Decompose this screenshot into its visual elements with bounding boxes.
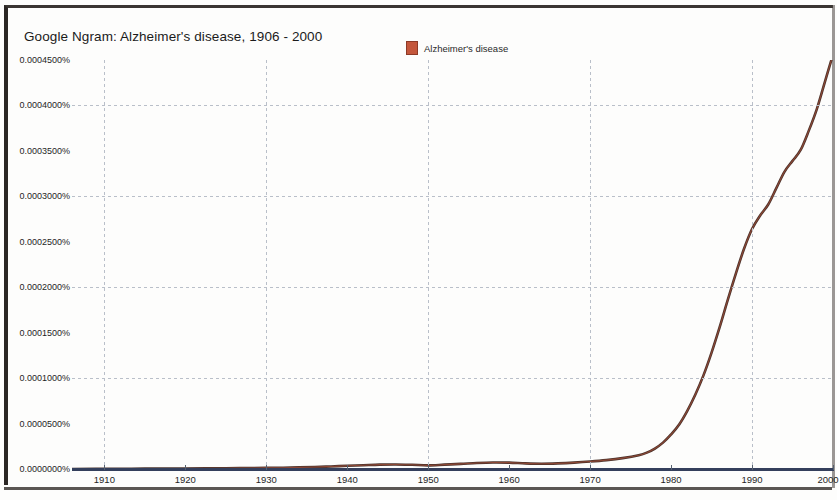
series-line-alzheimers-disease — [72, 60, 833, 469]
y-axis-tick-label: 0.0003500% — [19, 146, 70, 156]
x-axis-tick-mark — [266, 465, 267, 470]
y-axis-tick-label: 0.0000000% — [19, 464, 70, 474]
x-axis-tick-mark — [590, 465, 591, 470]
series-line-tint — [72, 60, 833, 469]
y-axis-tick-label: 0.0004500% — [19, 55, 70, 65]
x-axis-tick-label: 2000 — [817, 474, 838, 485]
horizontal-gridline — [72, 378, 833, 379]
x-axis-tick-mark — [428, 465, 429, 470]
x-axis-tick-label: 1910 — [94, 474, 115, 485]
x-axis-tick-label: 1950 — [418, 474, 439, 485]
x-axis-tick-label: 1940 — [337, 474, 358, 485]
x-axis-tick-mark — [185, 465, 186, 470]
vertical-gridline — [104, 60, 105, 469]
x-axis-tick-mark — [104, 465, 105, 470]
chart-legend: Alzheimer's disease — [406, 41, 508, 55]
x-axis-tick-label: 1920 — [175, 474, 196, 485]
horizontal-gridline — [72, 196, 833, 197]
legend-entry-label: Alzheimer's disease — [424, 43, 508, 54]
vertical-gridline — [428, 60, 429, 469]
x-axis-tick-label: 1990 — [741, 474, 762, 485]
y-axis-tick-label: 0.0001000% — [19, 373, 70, 383]
y-axis-tick-label: 0.0000500% — [19, 419, 70, 429]
x-axis-tick-mark — [347, 465, 348, 470]
x-axis-tick-mark — [752, 465, 753, 470]
horizontal-gridline — [72, 287, 833, 288]
y-axis-tick-labels: 0.0004500%0.0004000%0.0003500%0.0003000%… — [0, 0, 70, 500]
plot-area — [72, 60, 833, 469]
legend-swatch-icon — [406, 41, 418, 55]
x-axis-tick-label: 1930 — [256, 474, 277, 485]
x-axis-tick-mark — [509, 465, 510, 470]
series-canvas — [72, 60, 833, 469]
vertical-gridline — [752, 60, 753, 469]
x-axis-tick-label: 1980 — [661, 474, 682, 485]
vertical-gridline — [590, 60, 591, 469]
y-axis-tick-label: 0.0003000% — [19, 191, 70, 201]
x-axis-tick-label: 1960 — [499, 474, 520, 485]
y-axis-tick-label: 0.0002500% — [19, 237, 70, 247]
x-axis-tick-mark — [671, 465, 672, 470]
x-axis-tick-label: 1970 — [580, 474, 601, 485]
page-border-bottom — [4, 487, 832, 490]
y-axis-tick-label: 0.0004000% — [19, 100, 70, 110]
vertical-gridline — [266, 60, 267, 469]
horizontal-gridline — [72, 105, 833, 106]
x-axis-tick-mark — [833, 465, 834, 470]
y-axis-tick-label: 0.0001500% — [19, 328, 70, 338]
y-axis-tick-label: 0.0002000% — [19, 282, 70, 292]
